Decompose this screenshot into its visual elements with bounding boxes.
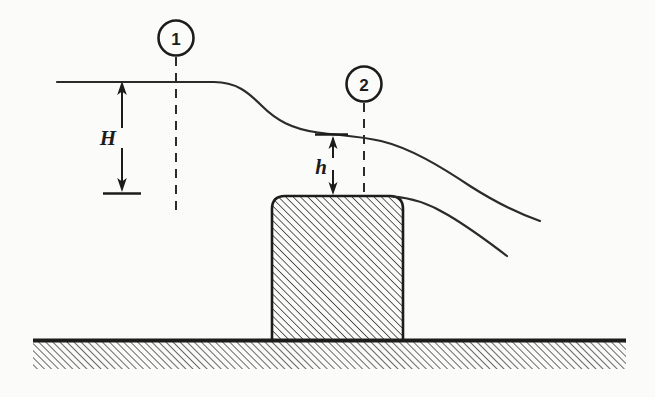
station-1-marker[interactable]: 1: [159, 21, 194, 213]
dimension-arrow-h: h: [315, 135, 348, 196]
ground-hatched-band: [33, 341, 626, 370]
weir-flow-diagram: 1 2 H h: [0, 0, 655, 397]
H-label: H: [99, 126, 117, 150]
station-2-marker[interactable]: 2: [347, 67, 382, 199]
block-hatch-fill: [272, 196, 403, 340]
ground-hatch-fill: [33, 341, 626, 369]
figure-canvas: 1 2 H h: [0, 0, 655, 397]
lower-nappe-curve: [392, 197, 507, 257]
h-label: h: [315, 155, 327, 179]
dimension-arrow-H: H: [99, 81, 141, 194]
nappe-path: [392, 197, 507, 257]
weir-block-hatched: [272, 196, 403, 340]
station-1-label: 1: [171, 30, 180, 49]
station-2-label: 2: [359, 76, 368, 95]
